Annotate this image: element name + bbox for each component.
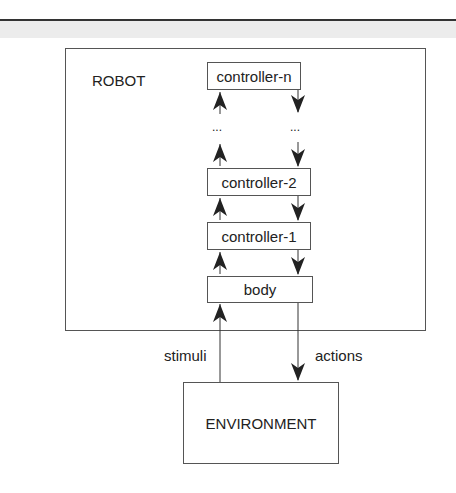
controller-1-label: controller-1 — [221, 228, 296, 245]
controller-1-box: controller-1 — [207, 222, 311, 250]
body-label: body — [244, 281, 277, 298]
environment-label: ENVIRONMENT — [206, 415, 317, 432]
controller-n-label: controller-n — [216, 68, 291, 85]
controller-2-label: controller-2 — [221, 174, 296, 191]
controller-2-box: controller-2 — [207, 168, 311, 196]
environment-box: ENVIRONMENT — [183, 382, 339, 464]
ellipsis-right: ... — [290, 120, 300, 134]
controller-n-box: controller-n — [207, 62, 301, 90]
stimuli-label: stimuli — [164, 347, 207, 364]
ellipsis-left: ... — [212, 120, 222, 134]
actions-label: actions — [315, 347, 363, 364]
body-box: body — [207, 276, 313, 303]
